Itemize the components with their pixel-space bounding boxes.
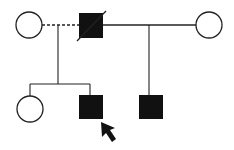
g1-female-left	[16, 12, 42, 38]
g1-female-right	[196, 12, 222, 38]
g2-male-proband	[79, 95, 103, 119]
g2-male-affected	[139, 95, 163, 119]
g1-male-affected-deceased	[79, 13, 103, 38]
proband-arrow-icon	[101, 122, 116, 142]
pedigree-diagram	[0, 0, 234, 150]
g2-female	[17, 96, 43, 122]
